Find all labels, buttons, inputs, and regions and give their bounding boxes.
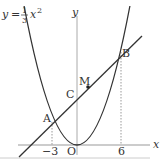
equation-numerator: 1 [22,6,27,15]
tick-label-neg3: −3 [42,145,58,158]
point-m-label: M [79,75,90,88]
equation-y: y [1,8,9,21]
point-b-label: B [122,47,130,60]
equation-denominator: 3 [22,16,27,25]
equation-exponent: 2 [37,6,42,15]
x-axis-label: x [153,138,160,151]
y-axis-label: y [71,6,79,19]
origin-label: O [67,145,76,158]
point-c-label: C [66,88,74,101]
equation-x: x [30,8,37,21]
tick-label-6: 6 [118,145,125,158]
diagram-canvas: y = 1 3 x 2 y x O −3 6 A B C M [0,0,167,160]
point-a-label: A [42,112,52,125]
equation-eq: = [11,8,20,21]
